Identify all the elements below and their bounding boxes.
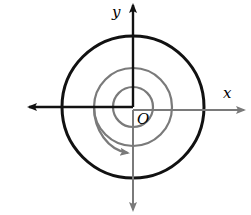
angle-diagram: y x O xyxy=(0,0,251,215)
x-axis-label: x xyxy=(223,84,232,102)
y-axis-label: y xyxy=(111,3,121,21)
origin-label: O xyxy=(137,110,149,128)
